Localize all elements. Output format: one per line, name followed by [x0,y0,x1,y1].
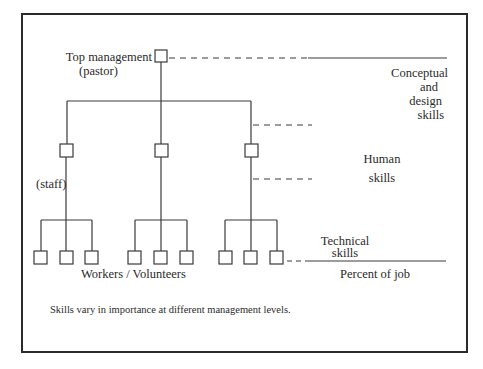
pastor-label: (pastor) [79,64,118,78]
staff-node-2 [155,144,168,157]
top-management-label: Top management [60,50,152,64]
design-text: design [378,94,448,108]
worker-nodes [34,251,283,264]
top-management-node [155,50,167,62]
technical-skills-label: Technical skills [315,235,375,259]
skills-text: skills [378,108,448,122]
diagram-caption: Skills vary in importance at different m… [50,303,291,317]
staff-label: (staff) [36,177,66,191]
workers-volunteers-label: Workers / Volunteers [81,267,186,281]
conceptual-skills-label: Conceptual and design skills [378,66,448,122]
percent-of-job-label: Percent of job [340,267,410,281]
human-skills-label: Human skills [357,152,407,185]
human-skills-text: skills [357,171,407,185]
and-text: and [378,80,448,94]
staff-node-1 [60,144,73,157]
human-text: Human [357,152,407,166]
conceptual-text: Conceptual [378,66,448,80]
staff-node-3 [245,144,258,157]
technical-skills-text: skills [315,247,375,259]
